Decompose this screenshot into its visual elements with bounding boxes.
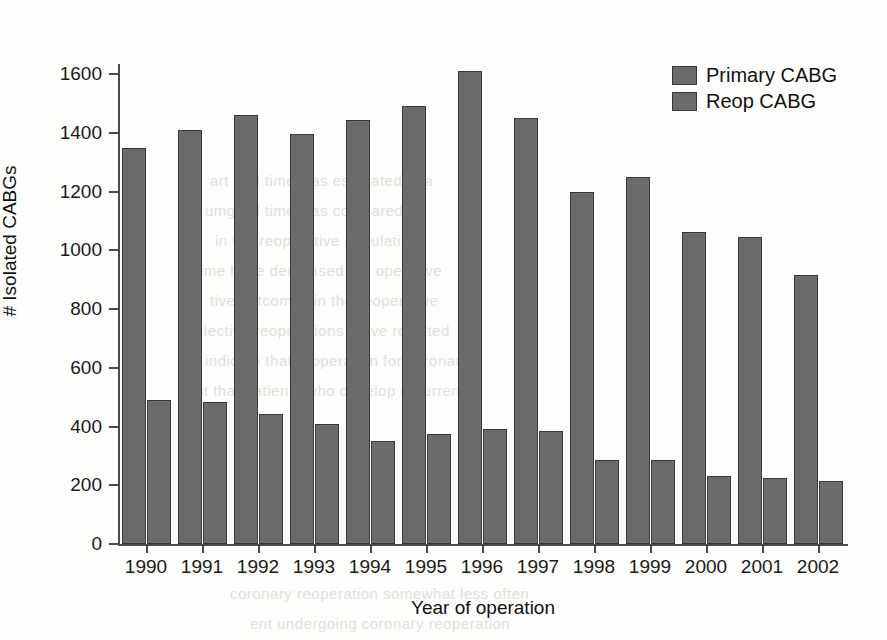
x-axis-title: Year of operation [118, 597, 848, 619]
x-tick-mark [818, 546, 820, 553]
x-tick-mark [426, 546, 428, 553]
bar-primary-cabg-1992 [234, 115, 258, 544]
legend-item-primary-cabg: Primary CABG [672, 62, 837, 88]
plot-area [118, 64, 846, 544]
y-tick-label: 400 [30, 416, 102, 438]
y-tick-label: 1600 [30, 63, 102, 85]
y-tick-label: 0 [30, 533, 102, 555]
x-tick-mark [258, 546, 260, 553]
bar-primary-cabg-2001 [738, 237, 762, 544]
y-tick-label: 1400 [30, 122, 102, 144]
legend-label: Primary CABG [706, 64, 837, 87]
chart-legend: Primary CABGReop CABG [672, 62, 837, 114]
x-tick-mark [538, 546, 540, 553]
bar-group [174, 130, 230, 544]
bar-group [286, 134, 342, 544]
bar-reop-cabg-1997 [539, 431, 563, 544]
legend-swatch-icon [672, 66, 697, 85]
x-tick-mark [314, 546, 316, 553]
cabg-volume-bar-chart: art and time was estimated in a umgical … [0, 0, 887, 640]
bar-reop-cabg-1991 [203, 402, 227, 544]
x-tick-mark [594, 546, 596, 553]
y-tick-label: 800 [30, 298, 102, 320]
bar-primary-cabg-1991 [178, 130, 202, 544]
bar-reop-cabg-1990 [147, 400, 171, 544]
bar-reop-cabg-1999 [651, 460, 675, 544]
bar-reop-cabg-1992 [259, 414, 283, 544]
bar-reop-cabg-1995 [427, 434, 451, 544]
bar-primary-cabg-1993 [290, 134, 314, 544]
bar-group [734, 237, 790, 544]
x-tick-mark [202, 546, 204, 553]
bar-reop-cabg-1996 [483, 429, 507, 544]
bar-group [678, 232, 734, 544]
bar-group [342, 120, 398, 544]
x-tick-mark [370, 546, 372, 553]
bar-primary-cabg-1994 [346, 120, 370, 544]
bar-reop-cabg-2002 [819, 481, 843, 544]
bar-group [622, 177, 678, 544]
bar-group [230, 115, 286, 544]
bar-reop-cabg-1993 [315, 424, 339, 544]
y-axis-title: # Isolated CABGs [0, 61, 21, 421]
x-tick-mark [482, 546, 484, 553]
bar-group [566, 192, 622, 545]
bar-primary-cabg-1996 [458, 71, 482, 544]
bar-primary-cabg-1995 [402, 106, 426, 544]
bar-primary-cabg-1997 [514, 118, 538, 544]
x-tick-label-2002: 2002 [773, 556, 863, 578]
bar-primary-cabg-1998 [570, 192, 594, 545]
bar-reop-cabg-2000 [707, 476, 731, 544]
x-tick-mark [650, 546, 652, 553]
bar-primary-cabg-2002 [794, 275, 818, 544]
bar-reop-cabg-1998 [595, 460, 619, 544]
y-tick-label: 200 [30, 474, 102, 496]
bar-group [790, 275, 846, 544]
x-tick-mark [762, 546, 764, 553]
y-tick-label: 1000 [30, 239, 102, 261]
bar-group [118, 148, 174, 544]
x-tick-mark [146, 546, 148, 553]
bar-primary-cabg-1999 [626, 177, 650, 544]
bar-group [454, 71, 510, 544]
x-tick-mark [706, 546, 708, 553]
legend-item-reop-cabg: Reop CABG [672, 88, 837, 114]
bar-group [398, 106, 454, 544]
bar-reop-cabg-2001 [763, 478, 787, 544]
y-tick-label: 1200 [30, 181, 102, 203]
bar-primary-cabg-2000 [682, 232, 706, 544]
bar-reop-cabg-1994 [371, 441, 395, 544]
legend-swatch-icon [672, 92, 697, 111]
y-tick-label: 600 [30, 357, 102, 379]
legend-label: Reop CABG [706, 90, 816, 113]
bar-primary-cabg-1990 [122, 148, 146, 544]
bar-group [510, 118, 566, 544]
